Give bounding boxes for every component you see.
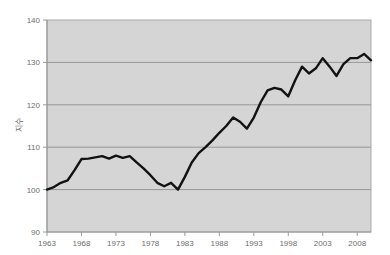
x-tick-label: 2008 <box>348 239 366 248</box>
y-tick-label: 90 <box>31 228 40 237</box>
x-tick-label: 1993 <box>245 239 263 248</box>
y-tick-label: 100 <box>27 186 41 195</box>
x-tick-label: 1983 <box>176 239 194 248</box>
line-chart: 14013012011010090 1963196819731978198319… <box>0 0 390 255</box>
y-tick-label: 120 <box>27 101 41 110</box>
y-tick-label: 110 <box>27 143 40 152</box>
y-axis-title: 지수 <box>15 118 24 132</box>
y-tick-label: 130 <box>27 58 41 67</box>
x-tick-label: 1968 <box>73 239 91 248</box>
y-tick-label: 140 <box>27 16 41 25</box>
x-tick-label: 1973 <box>107 239 125 248</box>
x-tick-label: 1978 <box>142 239 160 248</box>
x-tick-label: 2003 <box>314 239 332 248</box>
plot-area-background <box>47 20 371 232</box>
chart-container: 14013012011010090 1963196819731978198319… <box>0 0 390 255</box>
x-tick-label: 1998 <box>279 239 297 248</box>
x-tick-label: 1963 <box>38 239 56 248</box>
x-tick-label: 1988 <box>210 239 228 248</box>
